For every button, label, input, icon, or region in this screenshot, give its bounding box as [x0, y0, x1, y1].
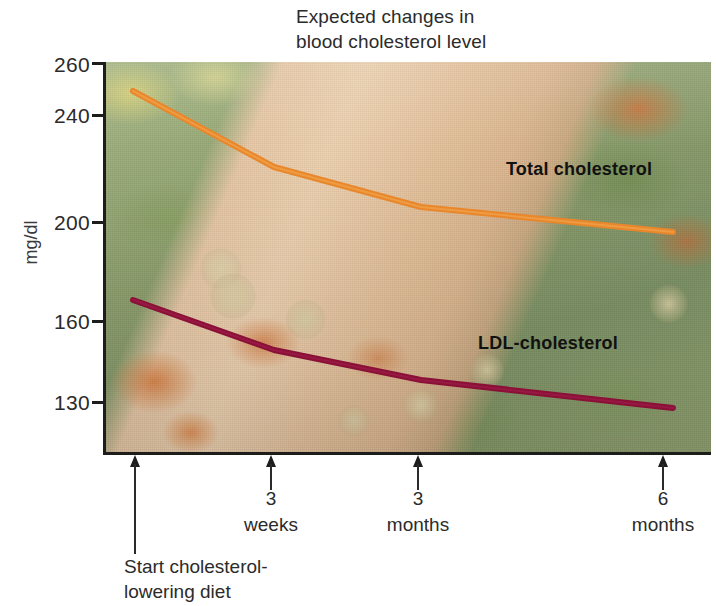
x-tick-unit: months — [603, 512, 716, 538]
arrow-shaft — [134, 464, 136, 554]
chart-title-line-1: Expected changes in — [296, 4, 636, 29]
x-tick-number: 6 — [603, 486, 716, 512]
chart-title: Expected changes in blood cholesterol le… — [296, 4, 636, 54]
x-tick-unit: months — [358, 512, 478, 538]
y-axis-ticks: 260 240 200 160 130 — [0, 0, 90, 460]
annotation-line-1: Start cholesterol- — [124, 554, 268, 579]
x-tick-caption-3-weeks: 3 weeks — [211, 486, 331, 538]
chart-title-line-2: blood cholesterol level — [296, 29, 636, 54]
x-tick-caption-3-months: 3 months — [358, 486, 478, 538]
y-tick-label-240: 240 — [12, 104, 90, 128]
plot-area: Total cholesterol LDL-cholesterol — [103, 62, 711, 452]
annotation-line-2: lowering diet — [124, 579, 268, 604]
y-tick-label-200: 200 — [12, 211, 90, 235]
x-tick-number: 3 — [358, 486, 478, 512]
x-tick-caption-6-months: 6 months — [603, 486, 716, 538]
y-tick-label-130: 130 — [12, 391, 90, 415]
series-line-ldl-cholesterol — [133, 300, 673, 408]
y-tick-label-260: 260 — [12, 53, 90, 77]
series-line-ldl-cholesterol-highlight — [133, 300, 673, 408]
x-tick-unit: weeks — [211, 512, 331, 538]
series-label-ldl-cholesterol: LDL-cholesterol — [478, 333, 618, 354]
x-axis-line — [103, 452, 711, 455]
x-tick-number: 3 — [211, 486, 331, 512]
y-tick-label-160: 160 — [12, 310, 90, 334]
series-label-total-cholesterol: Total cholesterol — [506, 159, 652, 180]
series-lines — [106, 62, 711, 452]
annotation-start-diet: Start cholesterol- lowering diet — [124, 554, 268, 604]
